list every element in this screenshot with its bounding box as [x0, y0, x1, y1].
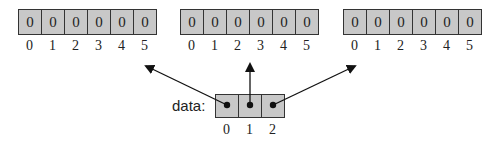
pointer-1-arrow [247, 64, 253, 108]
pointer-2-arrow [270, 66, 355, 108]
pointer-0-arrow [146, 66, 230, 108]
pointer-arrows [0, 0, 502, 146]
